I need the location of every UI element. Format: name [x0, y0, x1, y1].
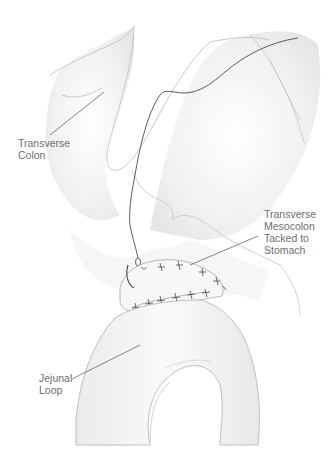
label-jejunal-loop: Jejunal Loop [39, 372, 72, 396]
label-transverse-colon: Transverse Colon [18, 137, 70, 161]
label-transverse-mesocolon: Transverse Mesocolon Tacked to Stomach [264, 208, 316, 256]
background-tissue [46, 28, 320, 300]
jejunal-loop [76, 300, 259, 445]
illustration-canvas: Transverse Colon Transverse Mesocolon Ta… [0, 0, 334, 458]
